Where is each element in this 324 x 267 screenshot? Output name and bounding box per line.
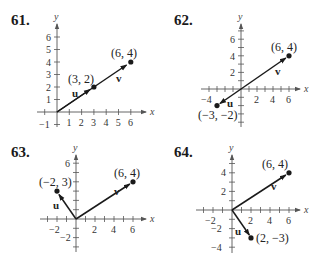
y-tick-neg2: −2 xyxy=(211,223,222,234)
y-axis-label: y xyxy=(72,142,78,153)
y-tick-6: 6 xyxy=(65,158,70,169)
point-label-v: (6, 4) xyxy=(111,46,137,60)
y-tick-1: 1 xyxy=(46,94,51,105)
x-tick-neg4: −4 xyxy=(201,94,212,105)
problem-number-63: 63. xyxy=(11,144,30,160)
x-tick-6: 6 xyxy=(286,94,291,105)
y-axis-label: y xyxy=(53,11,59,22)
point-label-u: (−3, −2) xyxy=(198,108,238,122)
vector-label-u: u xyxy=(72,87,78,99)
x-axis-label: x xyxy=(149,213,155,224)
y-tick-2: 2 xyxy=(221,186,226,197)
y-tick-neg2: −2 xyxy=(60,232,71,243)
x-tick-neg2: −2 xyxy=(49,224,60,235)
y-tick-2: 2 xyxy=(46,82,51,93)
y-tick-4: 4 xyxy=(221,167,226,178)
point-u xyxy=(248,235,253,240)
point-v xyxy=(128,59,133,64)
figure-63: 63. x y −2 2 4 6 xyxy=(11,142,155,252)
figure-64: 64. x y −2 2 4 6 xyxy=(174,142,309,253)
y-tick-6: 6 xyxy=(46,32,51,43)
point-label-u: (−2, 3) xyxy=(39,175,72,189)
x-axis-label: x xyxy=(303,83,309,94)
problem-number-62: 62. xyxy=(174,12,193,28)
y-tick-4: 4 xyxy=(46,57,51,68)
figure-62: 62. x y −4 2 4 6 xyxy=(174,11,309,127)
vector-label-u: u xyxy=(235,225,241,237)
x-tick-5: 5 xyxy=(116,117,121,128)
y-axis-label: y xyxy=(228,142,234,153)
vector-label-u: u xyxy=(53,199,59,211)
point-label-v: (6, 4) xyxy=(114,166,140,180)
x-tick-4: 4 xyxy=(270,94,275,105)
problem-number-64: 64. xyxy=(174,144,193,160)
x-tick-6: 6 xyxy=(130,224,135,235)
point-label-u: (3, 2) xyxy=(68,72,94,86)
vector-v xyxy=(76,184,130,219)
x-tick-1: 1 xyxy=(67,117,72,128)
x-tick-2: 2 xyxy=(248,215,253,226)
figure-61: 61. x y 1 2 3 4 5 6 xyxy=(11,11,155,130)
y-axis-label: y xyxy=(237,11,243,22)
x-tick-2: 2 xyxy=(79,117,84,128)
vector-label-v: v xyxy=(114,185,120,197)
x-axis-label: x xyxy=(149,106,155,117)
point-label-v: (6, 4) xyxy=(271,40,297,54)
y-tick-4: 4 xyxy=(230,51,235,62)
y-tick-5: 5 xyxy=(46,44,51,55)
x-tick-2: 2 xyxy=(92,224,97,235)
point-label-u: (2, −3) xyxy=(256,231,289,245)
y-tick-neg4: −4 xyxy=(211,242,222,253)
vector-label-v: v xyxy=(116,72,122,84)
vector-label-v: v xyxy=(275,65,281,77)
point-label-v: (6, 4) xyxy=(262,157,288,171)
x-tick-4: 4 xyxy=(103,117,108,128)
y-tick-6: 6 xyxy=(230,34,235,45)
y-tick-2: 2 xyxy=(230,67,235,78)
x-tick-6: 6 xyxy=(286,215,291,226)
point-u xyxy=(54,189,59,194)
x-tick-6: 6 xyxy=(128,117,133,128)
problem-number-61: 61. xyxy=(11,12,30,28)
vector-exercise-figures: 61. x y 1 2 3 4 5 6 xyxy=(0,0,324,267)
x-tick-2: 2 xyxy=(254,94,259,105)
y-tick-neg1: −1 xyxy=(39,119,50,130)
x-tick-3: 3 xyxy=(91,117,96,128)
vector-u xyxy=(59,195,76,220)
x-axis-label: x xyxy=(303,204,309,215)
x-tick-4: 4 xyxy=(111,224,116,235)
vector-label-u: u xyxy=(227,97,233,109)
y-tick-3: 3 xyxy=(46,69,51,80)
vector-v xyxy=(232,175,286,210)
vector-label-v: v xyxy=(271,180,277,192)
x-tick-4: 4 xyxy=(267,215,272,226)
